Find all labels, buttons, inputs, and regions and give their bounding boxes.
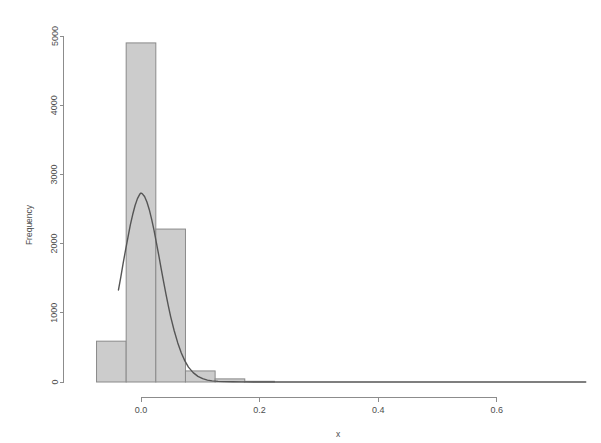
histogram-plot: 010002000300040005000 Frequency 0.00.20.… — [0, 0, 601, 443]
x-axis: 0.00.20.40.6 x — [135, 398, 503, 440]
density-curve — [118, 193, 585, 382]
x-axis-ticks: 0.00.20.40.6 — [135, 398, 503, 415]
y-tick-label: 2000 — [50, 234, 60, 254]
histogram-bar — [126, 43, 156, 382]
y-tick-label: 1000 — [50, 303, 60, 323]
y-axis-title: Frequency — [24, 204, 34, 245]
y-tick-label: 3000 — [50, 164, 60, 184]
histogram-bar — [156, 229, 186, 382]
y-axis-ticks: 010002000300040005000 — [50, 26, 64, 385]
y-tick-label: 0 — [50, 379, 60, 384]
histogram-bar — [97, 341, 127, 382]
plot-canvas: 010002000300040005000 Frequency 0.00.20.… — [0, 0, 601, 443]
histogram-bars — [97, 43, 275, 382]
y-tick-label: 4000 — [50, 95, 60, 115]
x-tick-label: 0.2 — [253, 405, 266, 415]
y-axis: 010002000300040005000 Frequency — [24, 26, 64, 385]
y-tick-label: 5000 — [50, 26, 60, 46]
x-tick-label: 0.0 — [135, 405, 148, 415]
x-tick-label: 0.6 — [491, 405, 504, 415]
x-tick-label: 0.4 — [372, 405, 385, 415]
x-axis-title: x — [336, 429, 341, 439]
